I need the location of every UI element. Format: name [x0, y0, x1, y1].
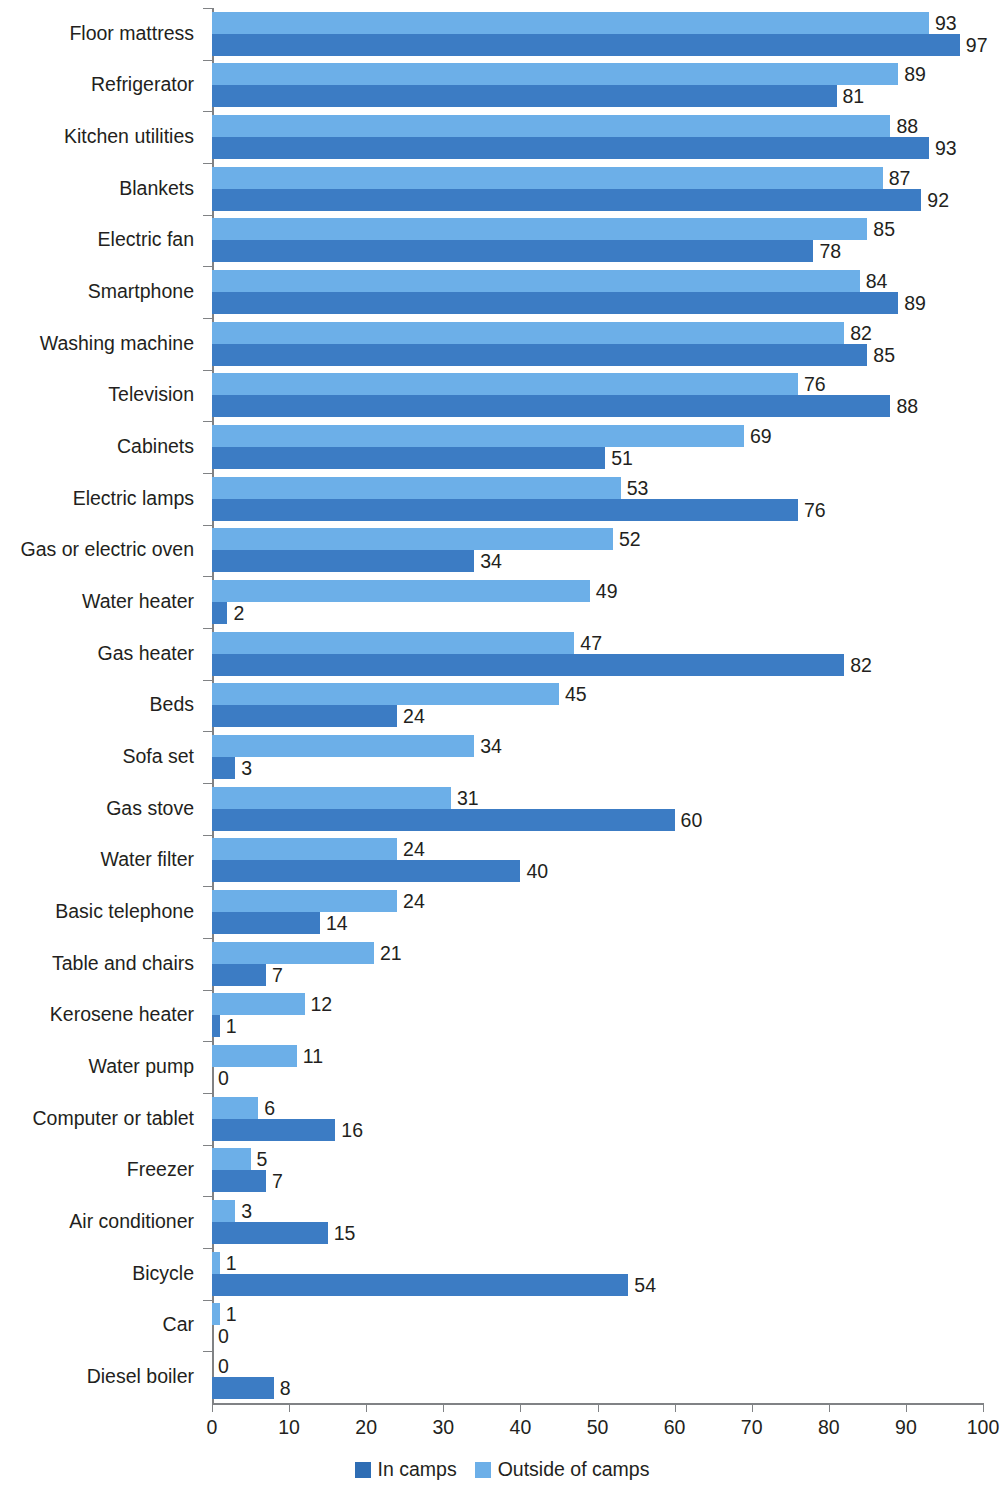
category-axis-label: Computer or tablet — [0, 1107, 194, 1130]
bar-value-outside-of-camps: 87 — [889, 167, 911, 189]
bar-value-outside-of-camps: 47 — [580, 632, 602, 654]
bar-value-outside-of-camps: 24 — [403, 838, 425, 860]
bar-value-outside-of-camps: 85 — [873, 218, 895, 240]
bar-in-camps — [212, 757, 235, 779]
legend-item[interactable]: Outside of camps — [475, 1458, 650, 1481]
category-axis-label: Freezer — [0, 1158, 194, 1181]
y-axis-tick — [203, 473, 212, 474]
bar-outside-of-camps — [212, 63, 898, 85]
bar-value-in-camps: 34 — [480, 550, 502, 572]
bar-in-camps — [212, 499, 798, 521]
y-axis-tick — [203, 318, 212, 319]
y-axis-tick — [203, 680, 212, 681]
x-axis-tick — [906, 1403, 907, 1412]
bar-value-in-camps: 89 — [904, 292, 926, 314]
x-axis-tick — [598, 1403, 599, 1412]
bar-in-camps — [212, 395, 890, 417]
y-axis-tick — [203, 8, 212, 9]
bar-outside-of-camps — [212, 1200, 235, 1222]
bar-in-camps — [212, 1015, 220, 1037]
bar-value-outside-of-camps: 76 — [804, 373, 826, 395]
x-axis-tick — [520, 1403, 521, 1412]
bar-in-camps — [212, 1222, 328, 1244]
chart-category-row: Table and chairs217 — [212, 938, 983, 990]
bar-value-outside-of-camps: 34 — [480, 735, 502, 757]
bar-value-outside-of-camps: 12 — [311, 993, 333, 1015]
bar-value-outside-of-camps: 53 — [627, 477, 649, 499]
category-axis-label: Gas or electric oven — [0, 538, 194, 561]
legend-item[interactable]: In camps — [355, 1458, 457, 1481]
category-axis-label: Cabinets — [0, 435, 194, 458]
x-axis-tick — [366, 1403, 367, 1412]
x-axis-tick — [752, 1403, 753, 1412]
x-axis-tick-label: 70 — [722, 1416, 782, 1439]
x-axis-tick — [443, 1403, 444, 1412]
bar-value-outside-of-camps: 45 — [565, 683, 587, 705]
bar-value-outside-of-camps: 69 — [750, 425, 772, 447]
category-axis-label: Blankets — [0, 177, 194, 200]
bar-in-camps — [212, 860, 520, 882]
y-axis-tick — [203, 370, 212, 371]
bar-value-in-camps: 14 — [326, 912, 348, 934]
chart-legend: In campsOutside of camps — [0, 1458, 1004, 1481]
bar-value-outside-of-camps: 31 — [457, 787, 479, 809]
chart-category-row: Refrigerator8981 — [212, 60, 983, 112]
bar-value-outside-of-camps: 82 — [850, 322, 872, 344]
bar-value-in-camps: 93 — [935, 137, 957, 159]
y-axis-tick — [203, 628, 212, 629]
chart-category-row: Water heater492 — [212, 576, 983, 628]
y-axis-tick — [203, 1300, 212, 1301]
bar-value-in-camps: 2 — [233, 602, 244, 624]
y-axis-tick — [203, 886, 212, 887]
bar-in-camps — [212, 602, 227, 624]
y-axis-tick — [203, 163, 212, 164]
category-axis-label: Air conditioner — [0, 1210, 194, 1233]
bar-in-camps — [212, 1170, 266, 1192]
category-axis-label: Refrigerator — [0, 73, 194, 96]
chart-category-row: Television7688 — [212, 370, 983, 422]
plot-area: Floor mattress9397Refrigerator8981Kitche… — [212, 8, 983, 1403]
bar-outside-of-camps — [212, 115, 890, 137]
bar-outside-of-camps — [212, 683, 559, 705]
legend-swatch-icon — [475, 1462, 491, 1478]
bar-outside-of-camps — [212, 735, 474, 757]
category-axis-label: Television — [0, 383, 194, 406]
category-axis-label: Water filter — [0, 848, 194, 871]
y-axis-tick — [203, 1145, 212, 1146]
category-axis-label: Water heater — [0, 590, 194, 613]
chart-category-row: Smartphone8489 — [212, 266, 983, 318]
bar-in-camps — [212, 447, 605, 469]
bar-outside-of-camps — [212, 838, 397, 860]
y-axis-tick — [203, 421, 212, 422]
x-axis-tick-label: 50 — [568, 1416, 628, 1439]
category-axis-label: Beds — [0, 693, 194, 716]
bar-in-camps — [212, 1274, 628, 1296]
bar-outside-of-camps — [212, 993, 305, 1015]
bar-value-in-camps: 0 — [218, 1067, 229, 1089]
y-axis-tick — [203, 525, 212, 526]
bar-value-in-camps: 97 — [966, 34, 988, 56]
bar-in-camps — [212, 137, 929, 159]
bar-value-outside-of-camps: 49 — [596, 580, 618, 602]
chart-category-row: Blankets8792 — [212, 163, 983, 215]
chart-category-row: Diesel boiler08 — [212, 1351, 983, 1403]
bar-in-camps — [212, 292, 898, 314]
y-axis-tick — [203, 835, 212, 836]
bar-value-outside-of-camps: 5 — [257, 1148, 268, 1170]
category-axis-label: Gas heater — [0, 642, 194, 665]
bar-value-outside-of-camps: 1 — [226, 1303, 237, 1325]
bar-value-in-camps: 7 — [272, 964, 283, 986]
category-axis-label: Electric lamps — [0, 487, 194, 510]
bar-value-in-camps: 7 — [272, 1170, 283, 1192]
chart-category-row: Gas or electric oven5234 — [212, 525, 983, 577]
chart-category-row: Cabinets6951 — [212, 421, 983, 473]
chart-category-row: Kitchen utilities8893 — [212, 111, 983, 163]
bar-value-in-camps: 85 — [873, 344, 895, 366]
bar-value-outside-of-camps: 6 — [264, 1097, 275, 1119]
bar-value-outside-of-camps: 0 — [218, 1355, 229, 1377]
bar-value-outside-of-camps: 88 — [896, 115, 918, 137]
bar-value-outside-of-camps: 52 — [619, 528, 641, 550]
y-axis-tick — [203, 1351, 212, 1352]
bar-in-camps — [212, 344, 867, 366]
bar-outside-of-camps — [212, 270, 860, 292]
